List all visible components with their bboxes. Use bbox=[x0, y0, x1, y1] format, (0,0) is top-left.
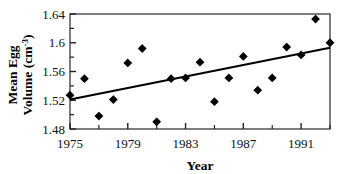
x-axis-tick-labels: 19751979198319871991 bbox=[57, 136, 314, 151]
x-axis-tick-label: 1991 bbox=[288, 136, 314, 151]
x-axis-tick-label: 1987 bbox=[230, 136, 257, 151]
x-axis-tick-label: 1983 bbox=[173, 136, 199, 151]
y-axis-title-line2: Volume (cm-3) bbox=[20, 35, 35, 116]
y-axis-title-line1: Mean Egg bbox=[5, 45, 20, 104]
y-axis-tick-label: 1.6 bbox=[49, 35, 66, 50]
y-axis-title-line2-close: ) bbox=[20, 35, 35, 40]
y-axis-title: Mean Egg Volume (cm-3) bbox=[5, 35, 35, 116]
plot-area-border bbox=[70, 14, 330, 129]
x-axis-title: Year bbox=[187, 158, 214, 173]
x-axis-tick-label: 1975 bbox=[57, 136, 83, 151]
chart-figure: 1.481.521.561.61.64 19751979198319871991… bbox=[0, 0, 344, 174]
x-axis-tick-label: 1979 bbox=[115, 136, 141, 151]
y-axis-tick-label: 1.52 bbox=[42, 93, 65, 108]
y-axis-tick-label: 1.48 bbox=[42, 122, 65, 137]
y-axis-tick-label: 1.64 bbox=[42, 7, 65, 22]
y-axis-title-line2-text: Volume (cm bbox=[20, 46, 35, 116]
y-axis-tick-labels: 1.481.521.561.61.64 bbox=[42, 7, 65, 137]
scatter-chart: 1.481.521.561.61.64 19751979198319871991… bbox=[0, 0, 344, 174]
y-axis-tick-label: 1.56 bbox=[42, 64, 65, 79]
